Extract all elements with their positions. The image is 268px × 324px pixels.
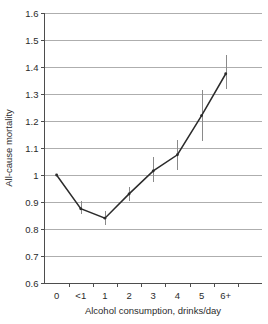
y-tick-label: 0.9 (25, 197, 38, 208)
y-tick-label: 1.5 (25, 35, 38, 46)
data-point (55, 174, 58, 177)
mortality-line (57, 74, 226, 218)
y-tick-label: 1.4 (25, 62, 38, 73)
chart-figure: 1.61.51.41.31.21.110.90.80.70.6 0<112345… (0, 0, 268, 324)
x-tick-label: 3 (151, 290, 156, 301)
error-bars (82, 55, 227, 225)
chart-canvas: 1.61.51.41.31.21.110.90.80.70.6 0<112345… (0, 0, 268, 324)
y-tick-label: 0.8 (25, 224, 38, 235)
y-tick-label: 1.2 (25, 116, 38, 127)
data-point (200, 114, 203, 117)
y-tick-label: 1.6 (25, 8, 38, 19)
x-tick-label: 6+ (220, 290, 231, 301)
data-point (79, 207, 82, 210)
y-axis-title: All-cause mortality (3, 109, 14, 187)
y-tick-label: 1.1 (25, 143, 38, 154)
y-gridlines (45, 14, 263, 257)
x-tick-label: 4 (175, 290, 180, 301)
y-tick-labels: 1.61.51.41.31.21.110.90.80.70.6 (25, 8, 38, 289)
data-point (104, 217, 107, 220)
x-tick-label: 1 (102, 290, 107, 301)
data-point (152, 170, 155, 173)
y-tick-label: 1.3 (25, 89, 38, 100)
data-point (176, 153, 179, 156)
x-tick-label: 0 (54, 290, 59, 301)
x-axis-title: Alcohol consumption, drinks/day (85, 305, 221, 316)
data-point (128, 193, 131, 196)
y-tick-label: 0.6 (25, 278, 38, 289)
data-point (224, 72, 227, 75)
y-tick-label: 1 (33, 170, 38, 181)
x-tick-label: 5 (199, 290, 204, 301)
x-tick-label: <1 (75, 290, 86, 301)
x-tick-labels: 0<1123456+ (54, 290, 232, 301)
x-tick-label: 2 (126, 290, 131, 301)
y-tick-label: 0.7 (25, 251, 38, 262)
